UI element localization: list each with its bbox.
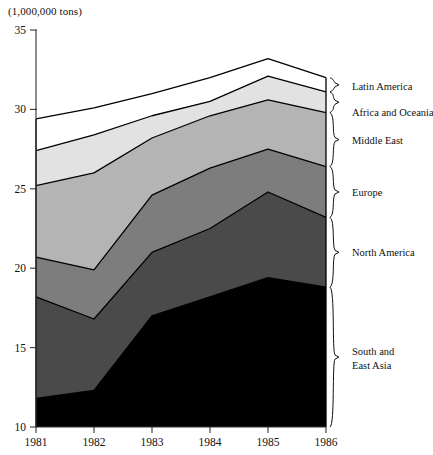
legend-label-north-america: North America <box>352 247 415 258</box>
legend-label-europe: Europe <box>352 187 383 198</box>
x-tick-label: 1982 <box>83 436 106 448</box>
area-bands <box>36 59 326 427</box>
y-tick-label: 30 <box>15 103 27 115</box>
legend-brace-africa-oceania <box>330 92 339 113</box>
y-axis-ticks: 101520253035 <box>15 24 38 433</box>
y-tick-label: 35 <box>15 24 27 36</box>
x-tick-label: 1983 <box>141 436 164 448</box>
legend-label-middle-east: Middle East <box>352 135 403 146</box>
legend-brace-north-america <box>330 217 339 287</box>
chart-canvas: 101520253035 198119821983198419851986 La… <box>0 0 433 455</box>
y-tick-label: 25 <box>15 183 27 195</box>
stacked-area-chart: (1,000,000 tons) 101520253035 1981198219… <box>0 0 433 455</box>
y-tick-label: 20 <box>15 262 27 274</box>
x-axis-ticks: 198119821983198419851986 <box>25 427 338 448</box>
legend-brace-south-east-asia <box>330 287 339 427</box>
legend-brace-middle-east <box>330 113 339 167</box>
x-tick-label: 1986 <box>315 436 338 448</box>
x-tick-label: 1981 <box>25 436 48 448</box>
x-tick-label: 1984 <box>199 436 222 448</box>
legend-label-africa-oceania: Africa and Oceania <box>352 107 433 118</box>
legend-brace-latin-america <box>330 78 339 92</box>
legend-brace-europe <box>330 167 339 218</box>
y-tick-label: 10 <box>15 421 27 433</box>
legend-label-latin-america: Latin America <box>352 81 413 92</box>
legend: Latin AmericaAfrica and OceaniaMiddle Ea… <box>330 78 433 427</box>
y-tick-label: 15 <box>15 342 27 354</box>
legend-label-south-east-asia: South andEast Asia <box>352 346 395 371</box>
x-tick-label: 1985 <box>257 436 280 448</box>
